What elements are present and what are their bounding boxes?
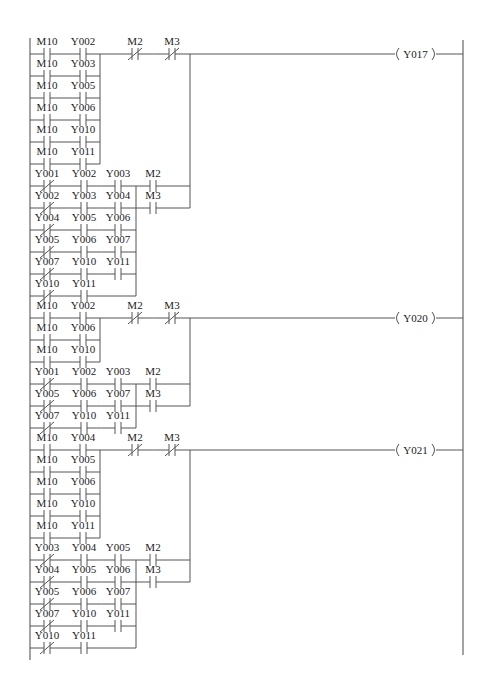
contact-label: Y002 <box>71 35 95 47</box>
contact-label: Y011 <box>71 519 95 531</box>
contact-label: Y011 <box>71 145 95 157</box>
contact-label: M2 <box>127 299 142 311</box>
contact-label: M10 <box>37 321 58 333</box>
contact-label: Y010 <box>72 255 97 267</box>
contact-label: Y006 <box>72 585 97 597</box>
contact-label: M10 <box>37 145 58 157</box>
contact-label: M10 <box>37 101 58 113</box>
contact-label: Y005 <box>35 233 60 245</box>
contact-label: Y011 <box>106 607 130 619</box>
contact-label: Y002 <box>71 299 95 311</box>
contact-label: M3 <box>164 299 180 311</box>
contact-label: Y005 <box>71 453 96 465</box>
contact-label: Y005 <box>72 211 97 223</box>
contact-label: Y006 <box>71 101 96 113</box>
ladder-diagram: M10Y002M10Y003M10Y005M10Y006M10Y010M10Y0… <box>0 0 483 682</box>
contact-label: Y006 <box>72 233 97 245</box>
contact-label: M10 <box>37 79 58 91</box>
contact-label: Y004 <box>35 563 60 575</box>
contact-label: Y005 <box>72 563 97 575</box>
contact-label: Y004 <box>106 189 131 201</box>
contact-label: Y006 <box>106 211 131 223</box>
contact-label: Y010 <box>35 277 60 289</box>
contact-label: Y004 <box>71 431 96 443</box>
contact-label: Y001 <box>35 167 59 179</box>
contact-label: Y002 <box>72 365 96 377</box>
coil-label: Y017 <box>403 48 428 60</box>
contact-label: Y003 <box>72 189 97 201</box>
contact-label: Y003 <box>35 541 60 553</box>
contact-label: M10 <box>37 431 58 443</box>
contact-label: Y010 <box>71 343 96 355</box>
contact-label: Y006 <box>71 475 96 487</box>
contact-label: Y001 <box>35 365 59 377</box>
contact-label: Y011 <box>106 409 130 421</box>
contact-label: M10 <box>37 453 58 465</box>
contact-label: M10 <box>37 343 58 355</box>
contact-label: Y003 <box>106 167 131 179</box>
contact-label: M10 <box>37 497 58 509</box>
contact-label: M2 <box>127 35 142 47</box>
contact-label: Y007 <box>35 607 60 619</box>
contact-label: M2 <box>145 541 160 553</box>
contact-label: M2 <box>127 431 142 443</box>
contact-label: M2 <box>145 167 160 179</box>
contact-label: Y011 <box>72 277 96 289</box>
contact-label: M3 <box>164 431 180 443</box>
contact-label: Y006 <box>71 321 96 333</box>
contact-label: Y011 <box>106 255 130 267</box>
contact-label: M3 <box>164 35 180 47</box>
contact-label: Y005 <box>106 541 131 553</box>
contact-label: Y010 <box>71 123 96 135</box>
coil-label: Y020 <box>403 312 428 324</box>
contact-label: Y003 <box>71 57 96 69</box>
contact-label: Y010 <box>71 497 96 509</box>
contact-label: Y005 <box>35 387 60 399</box>
contact-label: Y010 <box>72 607 97 619</box>
contact-label: Y004 <box>72 541 97 553</box>
contact-label: Y007 <box>35 409 60 421</box>
contact-label: Y011 <box>72 629 96 641</box>
contact-label: Y002 <box>72 167 96 179</box>
contact-label: M10 <box>37 475 58 487</box>
contact-label: Y007 <box>35 255 60 267</box>
contact-label: M10 <box>37 35 58 47</box>
contact-label: Y007 <box>106 585 131 597</box>
contact-label: M10 <box>37 299 58 311</box>
coil-label: Y021 <box>403 444 427 456</box>
contact-label: M10 <box>37 57 58 69</box>
contact-label: Y005 <box>35 585 60 597</box>
contact-label: M10 <box>37 123 58 135</box>
contact-label: M3 <box>145 387 161 399</box>
contact-label: M3 <box>145 563 161 575</box>
contact-label: M2 <box>145 365 160 377</box>
contact-label: Y007 <box>106 387 131 399</box>
contact-label: Y002 <box>35 189 59 201</box>
contact-label: Y007 <box>106 233 131 245</box>
contact-label: Y006 <box>106 563 131 575</box>
contact-label: M10 <box>37 519 58 531</box>
contact-label: Y003 <box>106 365 131 377</box>
contact-label: M3 <box>145 189 161 201</box>
contact-label: Y010 <box>72 409 97 421</box>
contact-label: Y010 <box>35 629 60 641</box>
contact-label: Y005 <box>71 79 96 91</box>
contact-label: Y004 <box>35 211 60 223</box>
contact-label: Y006 <box>72 387 97 399</box>
